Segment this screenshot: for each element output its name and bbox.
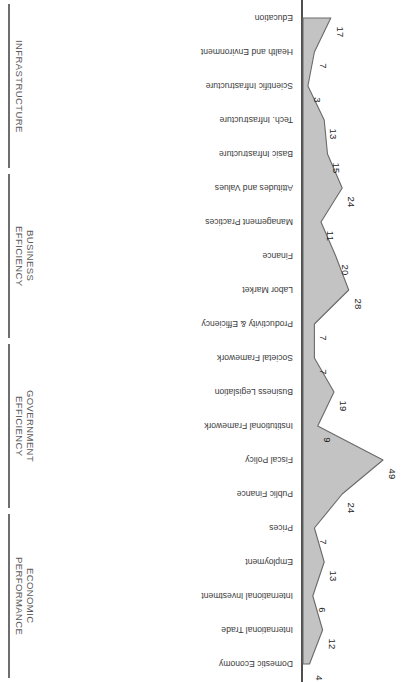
group-label: GOVERNMENT EFFICIENCY [14, 344, 36, 508]
value-label-text: 12 [326, 639, 337, 650]
area-polygon [303, 18, 383, 664]
value-label: 13 [328, 129, 339, 140]
value-label-text: 7 [318, 539, 329, 544]
value-label-text: 6 [316, 607, 327, 612]
category-label: Domestic Economy [143, 659, 293, 669]
value-label: 24 [346, 197, 357, 208]
value-label-text: 9 [321, 437, 332, 442]
category-label: Education [143, 13, 293, 23]
category-label: Public Finance [143, 489, 293, 499]
value-label-text: 7 [318, 369, 329, 374]
group-label: INFRASTRUCTURE [14, 4, 25, 168]
category-label: Management Practices [143, 217, 293, 227]
value-label-text: 20 [339, 265, 350, 276]
value-label-text: 28 [352, 299, 363, 310]
category-label: Basic Infrastructure [143, 149, 293, 159]
value-label: 28 [352, 299, 363, 310]
value-label-text: 7 [318, 63, 329, 68]
value-label: 12 [326, 639, 337, 650]
category-label: Productivity & Efficiency [143, 319, 293, 329]
value-label-text: 3 [311, 97, 322, 102]
value-label-text: 49 [387, 469, 398, 480]
value-label-text: 24 [346, 503, 357, 514]
value-label-text: 13 [328, 129, 339, 140]
category-label: Business Legislation [143, 387, 293, 397]
value-label: 49 [387, 469, 398, 480]
value-label-text: 7 [318, 335, 329, 340]
value-label-text: 24 [346, 197, 357, 208]
category-label: International Trade [143, 625, 293, 635]
plot-area: Domestic EconomyInternational TradeInter… [0, 0, 413, 682]
group-label: ECONOMIC PERFORMANCE [14, 514, 36, 678]
value-label-text: 11 [324, 231, 335, 241]
competitiveness-rank-chart: Domestic EconomyInternational TradeInter… [0, 0, 413, 682]
value-label-text: 13 [328, 571, 339, 582]
group-axis-rule [8, 344, 10, 508]
category-label: Institutional Framework [143, 421, 293, 431]
group-axis-rule [8, 4, 10, 168]
value-label: 20 [339, 265, 350, 276]
category-label: Labor Market [143, 285, 293, 295]
value-label: 7 [318, 539, 329, 544]
value-label: 3 [311, 97, 322, 102]
value-label-text: 17 [334, 27, 345, 38]
category-label: Scientific Infrastructure [143, 81, 293, 91]
value-label: 24 [346, 503, 357, 514]
group-axis-rule [8, 174, 10, 338]
category-label: Fiscal Policy [143, 455, 293, 465]
value-label-text: 15 [331, 163, 342, 174]
value-label: 7 [318, 63, 329, 68]
area-series [0, 0, 413, 682]
value-label: 7 [318, 335, 329, 340]
value-label: 15 [331, 163, 342, 174]
category-label: Attitudes and Values [143, 183, 293, 193]
category-label: Societal Framework [143, 353, 293, 363]
category-label: Finance [143, 251, 293, 261]
category-label: Health and Environment [143, 47, 293, 57]
value-label: 6 [316, 607, 327, 612]
value-label: 4 [313, 675, 324, 680]
value-label-text: 19 [338, 401, 349, 412]
category-label: Employment [143, 557, 293, 567]
category-label: International Investment [143, 591, 293, 601]
rotated-figure-wrapper: Domestic EconomyInternational TradeInter… [0, 0, 413, 682]
category-label: Tech. Infrastructure [143, 115, 293, 125]
group-label: BUSINESS EFFICIENCY [14, 174, 36, 338]
value-label-text: 4 [313, 675, 324, 680]
value-label: 11 [324, 231, 335, 241]
group-axis-rule [8, 514, 10, 678]
value-label: 9 [321, 437, 332, 442]
value-label: 7 [318, 369, 329, 374]
value-label: 17 [334, 27, 345, 38]
value-label: 19 [338, 401, 349, 412]
category-label: Prices [143, 523, 293, 533]
value-label: 13 [328, 571, 339, 582]
